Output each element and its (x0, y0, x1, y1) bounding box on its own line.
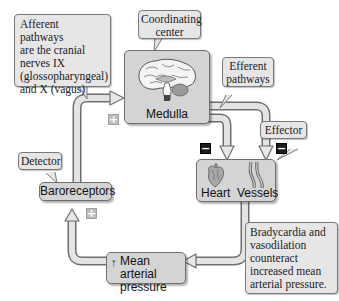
efferent-pathways-callout: Efferent pathways (222, 57, 274, 87)
blood-vessels-icon (247, 161, 267, 189)
heart-icon (205, 162, 227, 188)
baroreceptors-node: Baroreceptors (39, 182, 112, 201)
effector-node: Heart Vessels (196, 159, 276, 202)
brain-icon (134, 57, 200, 103)
medulla-stimulation-sign: + (108, 114, 119, 125)
effector-callout: Effector (260, 121, 307, 139)
baroreceptor-stimulation-sign: + (86, 208, 97, 219)
pressure-to-detector-arrow (72, 220, 108, 261)
outcome-callout: Bradycardia and vasodilation counteract … (245, 222, 338, 294)
medulla-label: Medulla (125, 107, 209, 121)
heart-inhibition-sign: − (200, 143, 211, 154)
medulla-node: Medulla (124, 50, 210, 124)
increase-arrow-icon: ↑ (111, 256, 117, 269)
afferent-arrow (77, 98, 110, 183)
vessels-label: Vessels (237, 186, 278, 200)
detector-callout: Detector (18, 152, 62, 170)
mean-arterial-pressure-node: ↑ Mean arterial pressure (106, 252, 186, 284)
effector-output-arrow (196, 200, 245, 261)
efferent-arrow-vessels (208, 106, 266, 146)
heart-label: Heart (201, 186, 230, 200)
coordinating-center-callout: Coordinating center (138, 10, 201, 39)
afferent-pathways-callout: Afferent pathways are the cranial nerves… (14, 14, 111, 87)
vessels-inhibition-sign: − (276, 143, 287, 154)
